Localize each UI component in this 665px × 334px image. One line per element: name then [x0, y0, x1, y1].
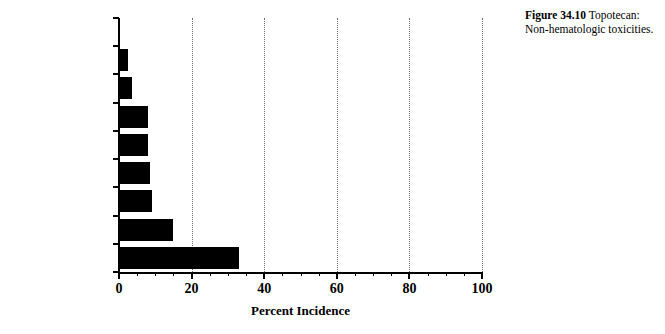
- x-tick-20: [191, 272, 193, 279]
- x-tick-90: [446, 272, 447, 276]
- x-tick-25: [210, 272, 211, 276]
- y-tick: [113, 158, 119, 160]
- figure-number: Figure 34.10: [525, 9, 586, 21]
- bar-row: [119, 216, 482, 244]
- x-tick-85: [428, 272, 429, 276]
- bar-anorexia: [119, 190, 152, 212]
- x-axis-label-100: 100: [472, 281, 493, 296]
- y-tick: [113, 17, 119, 19]
- bars-group: [119, 18, 482, 272]
- bar-vomiting: [119, 106, 148, 128]
- x-axis-label-80: 80: [402, 281, 416, 296]
- bar-row: [119, 244, 482, 272]
- bar-row: [119, 74, 482, 102]
- bar-diarrhea: [119, 134, 148, 156]
- x-tick-15: [173, 272, 174, 276]
- x-tick-5: [137, 272, 138, 276]
- bar-row: [119, 131, 482, 159]
- x-tick-30: [228, 272, 229, 276]
- x-tick-0: [118, 272, 120, 279]
- y-tick: [113, 186, 119, 188]
- x-axis-title: Percent Incidence: [119, 303, 482, 319]
- y-tick: [113, 243, 119, 245]
- bar-row: [119, 103, 482, 131]
- bar-chart: FeverTransaminasemiaFatigueVomitingDiarr…: [0, 0, 500, 334]
- x-tick-10: [155, 272, 156, 276]
- y-tick: [113, 215, 119, 217]
- y-tick: [113, 45, 119, 47]
- x-tick-40: [263, 272, 265, 279]
- bar-alopecia: [119, 219, 173, 241]
- x-tick-45: [282, 272, 283, 276]
- x-tick-35: [246, 272, 247, 276]
- x-tick-100: [481, 272, 483, 279]
- y-tick: [113, 73, 119, 75]
- x-axis-label-40: 40: [257, 281, 271, 296]
- figure-container: FeverTransaminasemiaFatigueVomitingDiarr…: [0, 0, 665, 334]
- x-tick-75: [391, 272, 392, 276]
- x-tick-65: [355, 272, 356, 276]
- x-axis-label-0: 0: [116, 281, 123, 296]
- x-axis-label-20: 20: [185, 281, 199, 296]
- figure-caption: Figure 34.10 Topotecan: Non-hematologic …: [525, 9, 663, 36]
- bar-fatigue: [119, 77, 132, 99]
- bar-row: [119, 187, 482, 215]
- bar-row: [119, 18, 482, 46]
- bar-stomatitis: [119, 162, 150, 184]
- x-tick-80: [408, 272, 410, 279]
- x-tick-70: [373, 272, 374, 276]
- x-tick-50: [301, 272, 302, 276]
- x-tick-95: [464, 272, 465, 276]
- x-tick-55: [319, 272, 320, 276]
- bar-nausea: [119, 247, 239, 269]
- y-tick: [113, 130, 119, 132]
- bar-transaminasemia: [119, 49, 128, 71]
- x-tick-60: [336, 272, 338, 279]
- bar-row: [119, 46, 482, 74]
- x-axis-label-60: 60: [330, 281, 344, 296]
- gridline-100: [482, 18, 484, 272]
- y-tick: [113, 102, 119, 104]
- bar-row: [119, 159, 482, 187]
